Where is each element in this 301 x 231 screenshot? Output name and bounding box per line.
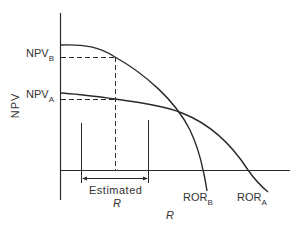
ror-b-label: RORB: [183, 192, 213, 203]
curve-a: [60, 93, 268, 192]
ror-b-sub: B: [207, 198, 212, 207]
npv-a-sub: A: [49, 95, 54, 104]
x-axis-label: R: [166, 210, 174, 221]
ror-a-label: RORA: [237, 192, 267, 203]
npv-b-sub: B: [49, 54, 54, 63]
npv-b-main: NPV: [26, 47, 49, 59]
npv-profile-diagram: NPV NPVB NPVA Estimated R RORB RORA R: [0, 0, 301, 231]
npv-b-label: NPVB: [26, 48, 54, 59]
ror-a-sub: A: [261, 198, 266, 207]
estimated-r-label: R: [113, 198, 121, 209]
estimated-label: Estimated: [89, 185, 142, 196]
ror-a-main: ROR: [237, 191, 261, 203]
npv-a-label: NPVA: [26, 89, 54, 100]
ror-b-main: ROR: [183, 191, 207, 203]
y-axis-label: NPV: [10, 93, 21, 119]
arrow-right-head-icon: [143, 177, 148, 181]
npv-a-main: NPV: [26, 88, 49, 100]
curve-b: [60, 45, 207, 191]
arrow-left-head-icon: [82, 177, 87, 181]
